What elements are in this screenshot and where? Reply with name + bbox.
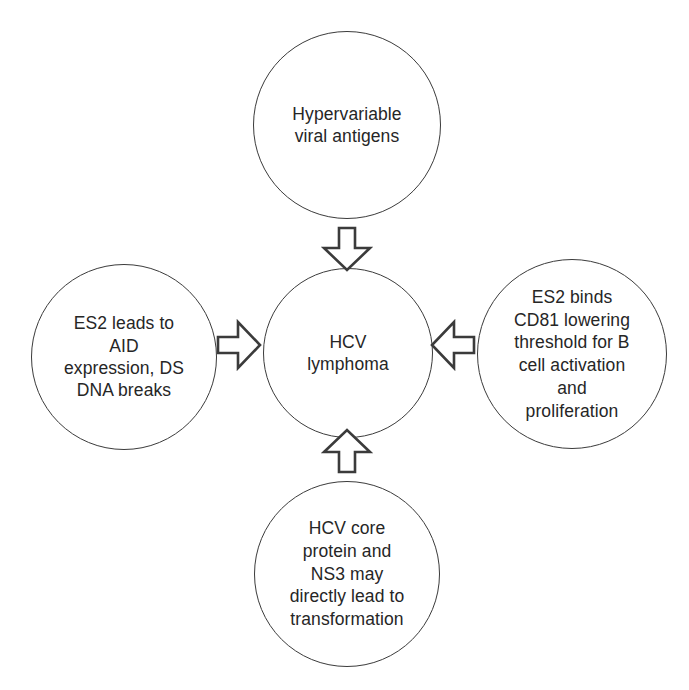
arrow-right-icon xyxy=(216,316,264,374)
node-es2-binds-cd81[interactable]: ES2 binds CD81 lowering threshold for B … xyxy=(477,259,667,449)
node-label-left: ES2 leads to AID expression, DS DNA brea… xyxy=(54,312,194,402)
arrow-up-icon xyxy=(318,428,376,474)
node-label-center: HCV lymphoma xyxy=(297,331,399,376)
node-es2-aid-expression[interactable]: ES2 leads to AID expression, DS DNA brea… xyxy=(31,264,217,450)
node-hypervariable-viral-antigens[interactable]: Hypervariable viral antigens xyxy=(253,31,441,219)
arrow-down-icon xyxy=(318,226,376,272)
node-label-bottom: HCV core protein and NS3 may directly le… xyxy=(280,517,414,631)
node-hcv-lymphoma[interactable]: HCV lymphoma xyxy=(263,268,433,438)
node-label-right: ES2 binds CD81 lowering threshold for B … xyxy=(504,286,640,423)
arrow-left-icon xyxy=(428,316,476,374)
node-label-top: Hypervariable viral antigens xyxy=(282,103,411,148)
diagram-canvas: Hypervariable viral antigens ES2 leads t… xyxy=(0,0,689,690)
node-hcv-core-protein-ns3[interactable]: HCV core protein and NS3 may directly le… xyxy=(254,481,440,667)
